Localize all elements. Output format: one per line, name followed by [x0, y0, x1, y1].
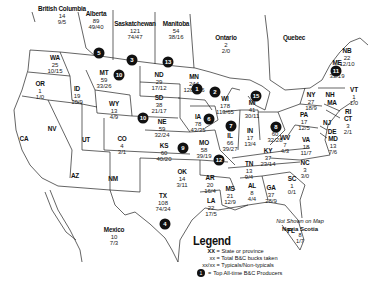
- producer-marker-10-mt: 10: [114, 70, 125, 81]
- region-id: ID1910/9: [71, 86, 83, 105]
- legend-row-abbr: XX = State or province: [201, 248, 282, 255]
- region-az: AZ: [71, 173, 79, 180]
- region-tx: TX10874/34: [155, 193, 170, 212]
- region-mo: MO5839/19: [196, 140, 211, 159]
- region-md: MD137/6: [328, 136, 338, 155]
- region-ontario: Ontario22/0: [215, 35, 236, 54]
- region-al: AL84/4: [248, 183, 256, 202]
- region-british-columbia: British Columbia149/5: [38, 6, 86, 25]
- region-il: IL6639/27: [222, 133, 237, 152]
- producer-marker-3: 3: [127, 55, 138, 66]
- region-alberta: Alberta8949/40: [86, 11, 107, 30]
- region-ar: AR2016/4: [204, 175, 216, 194]
- producer-marker-8: 8: [271, 122, 282, 133]
- region-quebec: Quebec: [283, 35, 305, 42]
- region-ny: NY2718/9: [305, 92, 317, 111]
- region-nh: NH: [326, 92, 335, 99]
- bc-whitetail-map: British Columbia149/5 Alberta8949/40 Sas…: [0, 0, 370, 292]
- region-in: IN1713/4: [244, 128, 256, 147]
- region-ut: UT: [82, 137, 90, 144]
- region-wv: WV74/3: [280, 135, 290, 154]
- legend-title: Legend: [193, 233, 269, 248]
- region-nm: NM: [108, 176, 118, 183]
- region-vt: VT11/0: [350, 87, 358, 106]
- region-tn: TN139/4: [245, 161, 253, 180]
- producer-marker-7: 7: [226, 121, 237, 132]
- producer-marker-9: 9: [178, 143, 189, 154]
- producer-dot-icon: 1: [197, 269, 205, 277]
- region-wy: WY134/9: [109, 101, 119, 120]
- region-ma: MA: [327, 100, 337, 107]
- producer-marker-4: 4: [160, 219, 171, 230]
- region-mt: MT5933/26: [96, 70, 111, 89]
- region-ne: NE5932/24: [154, 119, 169, 138]
- region-ms: MS2112/9: [224, 186, 236, 205]
- region-or: OR11/0: [35, 81, 44, 100]
- region-ks: KS6040/20: [156, 143, 171, 162]
- producer-marker-13: 13: [163, 57, 174, 68]
- region-ga: GA3728/9: [265, 185, 277, 204]
- not-shown-on-map: Not Shown on Map Novia Scotia 8 1/7: [276, 218, 324, 244]
- region-nd: ND2917/12: [151, 72, 166, 91]
- region-manitoba: Manitoba5438/16: [163, 21, 189, 40]
- producer-marker-1: 1: [192, 84, 203, 95]
- region-ky: KY3723/14: [260, 148, 275, 167]
- producer-marker-6: 6: [204, 114, 215, 125]
- region-pa: PA1712/5: [298, 112, 310, 131]
- region-mi: MI4130/11: [245, 100, 260, 119]
- not-shown-heading: Not Shown on Map: [276, 218, 324, 224]
- region-sd: SD3821/17: [151, 95, 166, 114]
- producer-marker-5: 5: [94, 48, 105, 59]
- region-wa: WA2510/15: [47, 55, 62, 74]
- region-la: LA2217/5: [205, 198, 217, 217]
- region-nv: NV: [48, 126, 56, 133]
- region-nj: NJ: [323, 120, 331, 127]
- region-ct: CT32/1: [344, 116, 352, 135]
- producer-marker-15: 15: [251, 91, 262, 102]
- not-shown-split: 1/7: [276, 238, 324, 244]
- producer-marker-10-ne: 10: [138, 113, 149, 124]
- legend-row-total: xx = Total B&C bucks taken: [201, 255, 282, 262]
- legend-row-split: xx/xx = Typicals/Non-typicals: [201, 262, 282, 269]
- producer-marker-12: 12: [214, 155, 225, 166]
- legend-row-producer: 1= Top All-time B&C Producers: [197, 269, 282, 277]
- producer-marker-2: 2: [210, 87, 221, 98]
- producer-marker-11: 11: [331, 66, 342, 77]
- region-saskatchewan: Saskatchewan12174/47: [114, 21, 156, 40]
- region-ca: CA: [20, 136, 29, 143]
- region-ok: OK143/11: [176, 169, 187, 188]
- legend: Legend XX = State or province xx = Total…: [193, 233, 282, 277]
- region-co: CO43/1: [117, 136, 126, 155]
- region-wi: WI178113/65: [216, 96, 234, 115]
- region-nc: NC33/0: [301, 160, 310, 179]
- region-mexico: Mexico107/3: [104, 227, 124, 246]
- region-va: VA1811/7: [300, 137, 311, 156]
- region-sc: SC10/1: [288, 176, 296, 195]
